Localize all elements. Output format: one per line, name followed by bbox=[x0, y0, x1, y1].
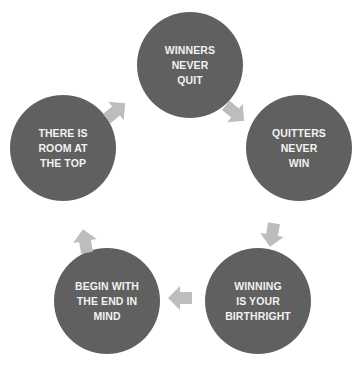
node-label: THERE IS ROOM AT THE TOP bbox=[38, 126, 87, 171]
node-label: QUITTERS NEVER WIN bbox=[272, 126, 326, 171]
node-label: BEGIN WITH THE END IN MIND bbox=[75, 279, 139, 324]
node-label: WINNING IS YOUR BIRTHRIGHT bbox=[225, 279, 291, 324]
cycle-diagram: WINNERS NEVER QUIT QUITTERS NEVER WIN WI… bbox=[0, 0, 363, 370]
node-label: WINNERS NEVER QUIT bbox=[165, 43, 215, 88]
node-winning-is-your-birthright: WINNING IS YOUR BIRTHRIGHT bbox=[205, 248, 311, 354]
node-begin-with-the-end-in-mind: BEGIN WITH THE END IN MIND bbox=[54, 248, 160, 354]
arrow-down-icon bbox=[257, 220, 287, 250]
arrow-up-icon bbox=[70, 226, 100, 256]
arrow-left-icon bbox=[167, 285, 193, 311]
node-quitters-never-win: QUITTERS NEVER WIN bbox=[246, 95, 352, 201]
